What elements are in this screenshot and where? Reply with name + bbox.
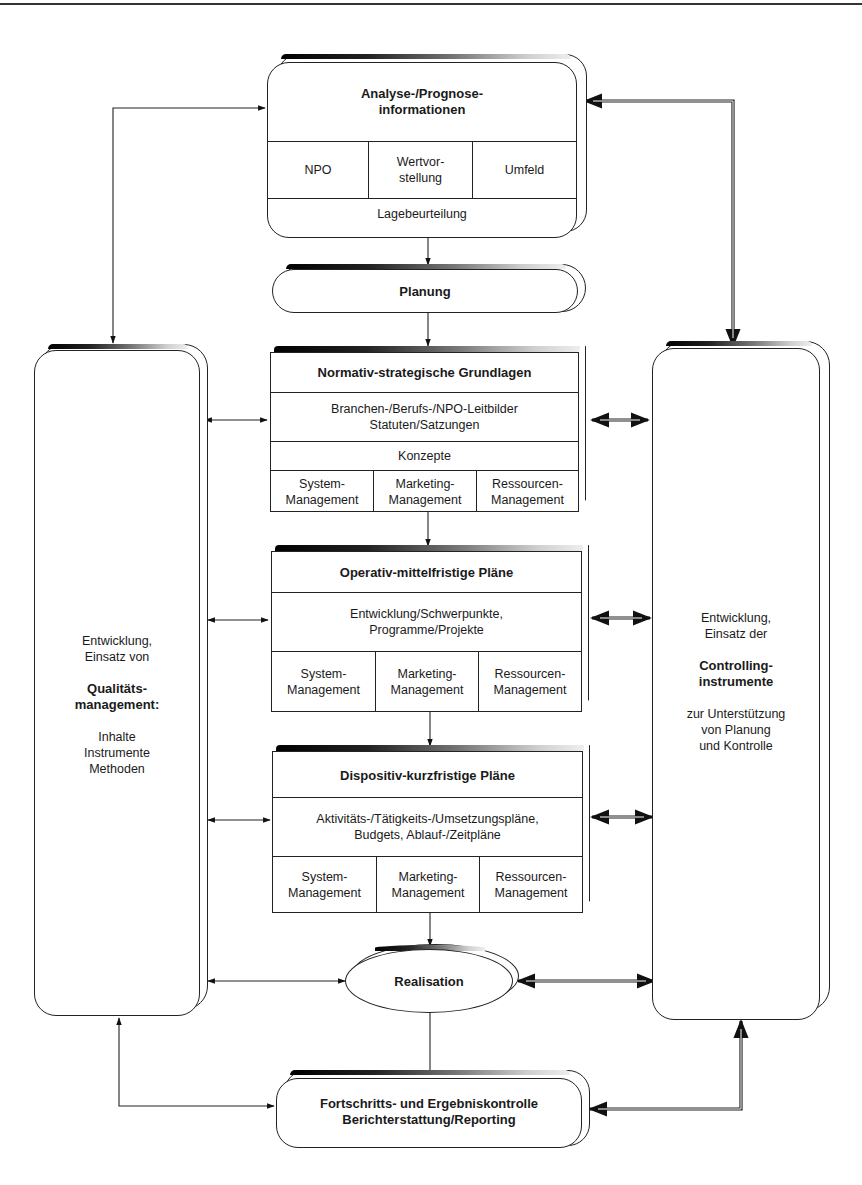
normativ-block: Normativ-strategische Grundlagen Branche… <box>270 346 588 512</box>
normativ-konzepte: Konzepte <box>271 442 578 470</box>
normativ-cell-ressourcen: Ressourcen- Management <box>476 471 578 512</box>
kontrolle-line1: Fortschritts- und Ergebniskontrolle <box>277 1096 581 1112</box>
analysis-cell-npo: NPO <box>268 142 368 198</box>
analysis-cell-wert-line2: stellung <box>399 170 442 186</box>
normativ-title: Normativ-strategische Grundlagen <box>271 365 578 381</box>
quality-bold2: management: <box>35 697 199 713</box>
cell-line2: Management <box>491 492 564 508</box>
normativ-konzepte-row: Konzepte <box>271 441 578 470</box>
quality-item1: Inhalte <box>35 729 199 745</box>
quality-column: Entwicklung, Einsatz von Qualitäts- mana… <box>34 344 210 1018</box>
planung-block: Planung <box>272 264 588 314</box>
dispositiv-text-line2: Budgets, Ablauf-/Zeitpläne <box>354 827 501 843</box>
block-side-face <box>582 745 590 907</box>
block-shade <box>290 1070 570 1075</box>
cell-line2: Management <box>288 885 361 901</box>
normativ-text-line1: Branchen-/Berufs-/NPO-Leitbilder <box>331 401 518 417</box>
cell-line2: Management <box>286 492 359 508</box>
quality-line2: Einsatz von <box>35 649 199 665</box>
normativ-cell-marketing: Marketing- Management <box>373 471 476 512</box>
analysis-footer: Lagebeurteilung <box>268 199 576 228</box>
realisation-block: Realisation <box>345 944 521 1016</box>
cell-line1: Marketing- <box>398 869 457 885</box>
dispositiv-text-line1: Aktivitäts-/Tätigkeits-/Umsetzungspläne, <box>316 811 538 827</box>
analysis-cells-row: NPO Wertvor- stellung Umfeld <box>268 141 576 198</box>
cell-line2: Management <box>494 682 567 698</box>
block-shade <box>281 54 571 59</box>
quality-line1: Entwicklung, <box>35 633 199 649</box>
operativ-block: Operativ-mittelfristige Pläne Entwicklun… <box>271 545 591 712</box>
normativ-cell-system: System- Management <box>271 471 373 512</box>
cell-line2: Management <box>392 885 465 901</box>
cell-line2: Management <box>287 682 360 698</box>
analysis-cell-wert-line1: Wertvor- <box>397 154 445 170</box>
controlling-column: Entwicklung, Einsatz der Controlling- in… <box>652 341 832 1021</box>
block-shade <box>48 344 188 349</box>
operativ-management-row: System- Management Marketing- Management… <box>272 651 581 712</box>
dispositiv-cell-marketing: Marketing- Management <box>376 857 479 913</box>
normativ-text-line2: Statuten/Satzungen <box>370 417 480 433</box>
operativ-text-line1: Entwicklung/Schwerpunkte, <box>350 606 503 622</box>
controlling-sub3: und Kontrolle <box>653 738 819 754</box>
dispositiv-text-row: Aktivitäts-/Tätigkeits-/Umsetzungspläne,… <box>273 797 582 856</box>
analysis-title-line1: Analyse-/Prognose- <box>268 86 576 102</box>
analysis-cell-wertvorstellung: Wertvor- stellung <box>368 142 472 198</box>
block-shade <box>666 341 812 346</box>
analysis-cell-umfeld: Umfeld <box>472 142 576 198</box>
cell-line1: Marketing- <box>395 476 454 492</box>
normativ-text-row: Branchen-/Berufs-/NPO-Leitbilder Statute… <box>271 392 578 441</box>
kontrolle-line2: Berichterstattung/Reporting <box>277 1112 581 1128</box>
cell-line1: System- <box>299 476 345 492</box>
analysis-title-line2: informationen <box>268 102 576 118</box>
cell-line1: Ressourcen- <box>496 869 567 885</box>
analysis-footer-row: Lagebeurteilung <box>268 198 576 228</box>
dispositiv-management-row: System- Management Marketing- Management… <box>273 856 582 913</box>
operativ-cell-system: System- Management <box>272 652 375 712</box>
controlling-sub2: von Planung <box>653 722 819 738</box>
quality-item3: Methoden <box>35 761 199 777</box>
controlling-bold1: Controlling- <box>653 658 819 674</box>
controlling-sub1: zur Unterstützung <box>653 706 819 722</box>
operativ-text-row: Entwicklung/Schwerpunkte, Programme/Proj… <box>272 592 581 651</box>
normativ-management-row: System- Management Marketing- Management… <box>271 470 578 512</box>
controlling-bold2: instrumente <box>653 674 819 690</box>
cell-line2: Management <box>389 492 462 508</box>
cell-line2: Management <box>391 682 464 698</box>
dispositiv-title: Dispositiv-kurzfristige Pläne <box>273 768 582 784</box>
analysis-block: Analyse-/Prognose- informationen NPO Wer… <box>267 56 587 240</box>
dispositiv-block: Dispositiv-kurzfristige Pläne Aktivitäts… <box>272 745 592 913</box>
dispositiv-cell-system: System- Management <box>273 857 376 913</box>
quality-item2: Instrumente <box>35 745 199 761</box>
cell-line1: Ressourcen- <box>492 476 563 492</box>
cell-line2: Management <box>495 885 568 901</box>
quality-bold1: Qualitäts- <box>35 681 199 697</box>
realisation-label: Realisation <box>394 974 463 989</box>
cell-line1: Ressourcen- <box>495 666 566 682</box>
block-side-face <box>578 346 586 506</box>
controlling-line1: Entwicklung, <box>653 610 819 626</box>
planung-label: Planung <box>399 284 450 299</box>
kontrolle-block: Fortschritts- und Ergebniskontrolle Beri… <box>276 1070 592 1150</box>
cell-line1: System- <box>301 666 347 682</box>
dispositiv-cell-ressourcen: Ressourcen- Management <box>479 857 582 913</box>
block-side-face <box>581 545 589 706</box>
controlling-line2: Einsatz der <box>653 626 819 642</box>
operativ-title: Operativ-mittelfristige Pläne <box>272 565 581 581</box>
cell-line1: System- <box>302 869 348 885</box>
cell-line1: Marketing- <box>397 666 456 682</box>
operativ-cell-ressourcen: Ressourcen- Management <box>478 652 581 712</box>
operativ-text-line2: Programme/Projekte <box>369 622 484 638</box>
operativ-cell-marketing: Marketing- Management <box>375 652 478 712</box>
